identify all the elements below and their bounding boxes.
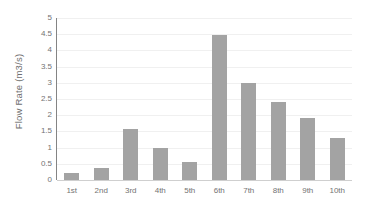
y-axis-tick-label: 4.5 bbox=[26, 30, 52, 38]
bar-chart: Flow Rate (m3/s) 00.511.522.533.544.55 1… bbox=[0, 0, 368, 207]
bar[interactable] bbox=[94, 168, 109, 180]
bar[interactable] bbox=[153, 148, 168, 180]
x-axis-baseline bbox=[57, 180, 352, 181]
y-axis-tick-label: 4 bbox=[26, 46, 52, 54]
y-axis-tick-label: 3 bbox=[26, 79, 52, 87]
y-axis-title-text: Flow Rate (m3/s) bbox=[14, 53, 25, 129]
x-axis-tick-label: 6th bbox=[205, 183, 235, 199]
bar[interactable] bbox=[330, 138, 345, 180]
y-axis-tick-label: 1.5 bbox=[26, 127, 52, 135]
y-axis-tick-label: 0.5 bbox=[26, 160, 52, 168]
bar[interactable] bbox=[123, 129, 138, 180]
bar-slot bbox=[264, 18, 294, 180]
y-axis-tick-label: 2.5 bbox=[26, 95, 52, 103]
y-axis-tick-label: 2 bbox=[26, 111, 52, 119]
x-axis-tick-label: 5th bbox=[175, 183, 205, 199]
x-axis-tick-label: 8th bbox=[264, 183, 294, 199]
x-axis-tick-label: 1st bbox=[57, 183, 87, 199]
bar[interactable] bbox=[212, 35, 227, 180]
plot-area bbox=[57, 18, 352, 180]
bar[interactable] bbox=[271, 102, 286, 180]
y-axis-tick-label: 5 bbox=[26, 14, 52, 22]
x-axis-tick-label: 9th bbox=[293, 183, 323, 199]
bar[interactable] bbox=[241, 83, 256, 180]
bar-slot bbox=[146, 18, 176, 180]
y-axis-tick-label: 0 bbox=[26, 176, 52, 184]
bar-slot bbox=[234, 18, 264, 180]
bar[interactable] bbox=[300, 118, 315, 180]
bar-slot bbox=[175, 18, 205, 180]
bar[interactable] bbox=[182, 162, 197, 180]
bar-slot bbox=[323, 18, 353, 180]
bar-slot bbox=[293, 18, 323, 180]
bar-series bbox=[57, 18, 352, 180]
x-axis-tick-labels: 1st2nd3rd4th5th6th7th8th9th10th bbox=[57, 183, 352, 199]
bar-slot bbox=[116, 18, 146, 180]
bar-slot bbox=[57, 18, 87, 180]
x-axis-tick-label: 3rd bbox=[116, 183, 146, 199]
x-axis-tick-label: 10th bbox=[323, 183, 353, 199]
bar[interactable] bbox=[64, 173, 79, 180]
y-axis-tick-label: 1 bbox=[26, 144, 52, 152]
x-axis-tick-label: 2nd bbox=[87, 183, 117, 199]
bar-slot bbox=[205, 18, 235, 180]
x-axis-tick-label: 7th bbox=[234, 183, 264, 199]
y-axis-tick-labels: 00.511.522.533.544.55 bbox=[26, 18, 52, 180]
bar-slot bbox=[87, 18, 117, 180]
y-axis-tick-label: 3.5 bbox=[26, 63, 52, 71]
x-axis-tick-label: 4th bbox=[146, 183, 176, 199]
